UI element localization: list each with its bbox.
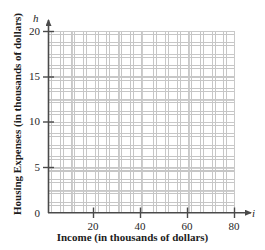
y-tick-label-5: 5: [22, 162, 40, 173]
y-axis-title: Housing Expenses (in thousands of dollar…: [11, 9, 23, 219]
x-axis-variable-label: i: [252, 207, 255, 219]
y-tick-label-20: 20: [22, 26, 40, 37]
y-axis-variable-label: h: [33, 12, 39, 24]
x-axis-title: Income (in thousands of dollars): [0, 231, 265, 243]
origin-label: 0: [22, 208, 40, 219]
grid-top-edge: [48, 31, 235, 32]
chart-figure: h i 20 15 10 5 0 20 40 60 80 Income (in …: [0, 0, 265, 250]
grid-right-edge: [234, 31, 235, 213]
major-gridlines: [48, 31, 235, 213]
plot-area: [48, 31, 235, 213]
y-tick-label-10: 10: [22, 116, 40, 127]
y-tick-label-15: 15: [22, 71, 40, 82]
